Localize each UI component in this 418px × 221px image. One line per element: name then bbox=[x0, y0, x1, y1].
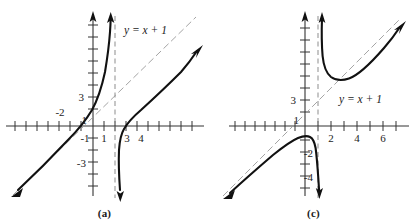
y-label-a-neg3: -3 bbox=[77, 157, 87, 169]
equation-label-a: y = x + 1 bbox=[123, 24, 167, 37]
caption-a: (a) bbox=[0, 207, 209, 219]
curve-c-upper-branch bbox=[322, 18, 400, 80]
graph-a-svg: -2 -1 1 3 4 3 1 -3 y = x + 1 bbox=[0, 0, 209, 221]
curve-a-right-branch bbox=[119, 51, 197, 190]
equation-label-c: y = x + 1 bbox=[338, 93, 382, 106]
y-label-c-neg4: -4 bbox=[304, 171, 314, 183]
y-label-a-1: 1 bbox=[82, 114, 88, 126]
x-label-c-6: 6 bbox=[380, 132, 386, 144]
y-label-c-1: 1 bbox=[294, 114, 300, 126]
figure-container: -2 -1 1 3 4 3 1 -3 y = x + 1 (a) bbox=[0, 0, 418, 221]
y-label-c-neg2: -2 bbox=[304, 147, 313, 159]
graph-panel-a: -2 -1 1 3 4 3 1 -3 y = x + 1 (a) bbox=[0, 0, 209, 221]
x-label-c-4: 4 bbox=[354, 132, 360, 144]
arrow-curve-a-right-down-icon bbox=[117, 191, 124, 202]
graph-panel-c: 2 4 6 3 1 -2 -4 y = x + 1 (c) bbox=[209, 0, 418, 221]
graph-c-svg: 2 4 6 3 1 -2 -4 y = x + 1 bbox=[209, 0, 418, 221]
caption-c: (c) bbox=[209, 207, 418, 219]
arrow-curve-a-left-down-icon bbox=[11, 188, 23, 197]
y-label-a-3: 3 bbox=[79, 91, 85, 103]
curve-c-lower-branch bbox=[230, 136, 319, 193]
curve-a-left-branch bbox=[18, 18, 111, 190]
y-label-c-3: 3 bbox=[291, 94, 297, 106]
x-label-c-2: 2 bbox=[328, 132, 334, 144]
x-label-a-neg1: -1 bbox=[80, 132, 89, 144]
arrowheads-a bbox=[11, 11, 203, 202]
x-label-a-4: 4 bbox=[138, 132, 144, 144]
slant-asymptote-c bbox=[223, 18, 401, 196]
x-label-a-1: 1 bbox=[101, 132, 107, 144]
x-label-a-3: 3 bbox=[124, 132, 130, 144]
x-label-a-neg2: -2 bbox=[55, 106, 64, 118]
